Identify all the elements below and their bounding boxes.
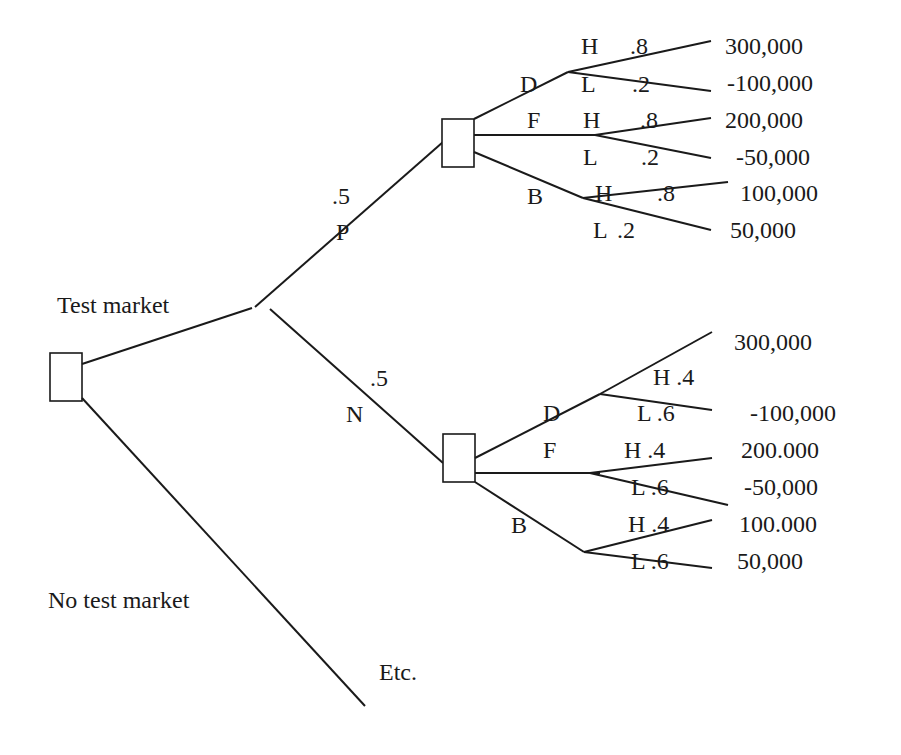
outcome-l-prob: .2 — [632, 71, 650, 97]
label-no-test-market: No test market — [48, 587, 190, 613]
outcome-l: L .6 — [637, 400, 675, 426]
branch-b — [475, 482, 584, 552]
root-decision-node — [50, 353, 82, 401]
label-positive: P — [336, 219, 349, 245]
outcome-h: H — [581, 33, 598, 59]
branch-d — [475, 394, 600, 458]
outcome-h: H — [595, 180, 612, 206]
outcome-h: H .4 — [628, 511, 669, 537]
label-test-market: Test market — [57, 292, 170, 318]
positive-decision-subtree: D F B H .8 L .2 H .8 L .2 H .8 L .2 300,… — [442, 33, 818, 243]
decision-label: B — [527, 183, 543, 209]
outcome-h: H — [583, 107, 600, 133]
label-etc: Etc. — [379, 659, 417, 685]
outcome-l: L .6 — [631, 474, 669, 500]
outcome-l: L — [581, 71, 596, 97]
payoff: 300,000 — [725, 33, 803, 59]
payoff: 50,000 — [737, 548, 803, 574]
payoff: -100,000 — [750, 400, 836, 426]
decision-label: F — [543, 437, 556, 463]
positive-decision-node — [442, 119, 474, 167]
decision-label: B — [511, 512, 527, 538]
prob-positive: .5 — [332, 183, 350, 209]
payoff: 200.000 — [741, 437, 819, 463]
decision-label: D — [520, 71, 537, 97]
decision-label: D — [543, 400, 560, 426]
outcome-h-prob: .8 — [657, 180, 675, 206]
payoff: 100.000 — [739, 511, 817, 537]
outcome-h: H .4 — [653, 364, 694, 390]
payoff: 300,000 — [734, 329, 812, 355]
payoff: -50,000 — [736, 144, 810, 170]
outcome-l-prob: .2 — [617, 217, 635, 243]
outcome-l: L — [593, 217, 608, 243]
outcome-h-prob: .8 — [640, 107, 658, 133]
decision-label: F — [527, 107, 540, 133]
payoff: 200,000 — [725, 107, 803, 133]
outcome-h-prob: .8 — [630, 33, 648, 59]
outcome-l-prob: .2 — [641, 144, 659, 170]
outcome-h: H .4 — [624, 437, 665, 463]
outcome-l: L — [583, 144, 598, 170]
payoff: 50,000 — [730, 217, 796, 243]
decision-tree-diagram: Test market No test market Etc. .5 P .5 … — [0, 0, 901, 755]
negative-decision-node — [443, 434, 475, 482]
payoff: 100,000 — [740, 180, 818, 206]
branch-no-test-market — [82, 398, 365, 706]
negative-decision-subtree: D F B H .4 L .6 H .4 L .6 H .4 L .6 300,… — [443, 329, 836, 574]
branch-negative — [270, 309, 443, 463]
label-negative: N — [346, 401, 363, 427]
payoff: -50,000 — [744, 474, 818, 500]
prob-negative: .5 — [370, 365, 388, 391]
outcome-l: L .6 — [631, 548, 669, 574]
payoff: -100,000 — [727, 70, 813, 96]
